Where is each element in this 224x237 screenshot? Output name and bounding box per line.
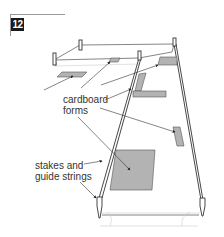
form-5	[133, 91, 166, 97]
stakes	[53, 38, 205, 218]
label-line: guide strings	[35, 171, 92, 182]
label-line: stakes and	[35, 160, 92, 171]
form-4	[135, 73, 146, 91]
form-7	[110, 150, 155, 190]
cardboard-forms-label: cardboard forms	[63, 94, 108, 116]
label-line: cardboard	[63, 94, 108, 105]
form-3	[158, 57, 177, 65]
stakes-and-strings-label: stakes and guide strings	[35, 160, 92, 182]
label-line: forms	[63, 105, 108, 116]
form-2	[109, 58, 120, 62]
form-6	[173, 127, 184, 146]
layout-diagram	[0, 0, 224, 237]
